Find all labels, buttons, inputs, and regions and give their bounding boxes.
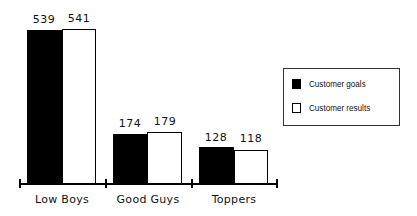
category-label-toppers: Toppers (191, 193, 277, 206)
legend-item-goals: Customer goals (292, 79, 372, 89)
category-label-good-guys: Good Guys (105, 193, 191, 206)
value-label: 539 (26, 13, 62, 26)
legend-swatch-goals (292, 79, 301, 89)
bar-low-boys-goals (27, 30, 62, 184)
bar-toppers-goals (199, 147, 234, 184)
legend-swatch-results (292, 103, 301, 113)
value-label: 118 (233, 132, 269, 145)
value-label: 128 (198, 131, 234, 144)
value-label: 179 (147, 115, 183, 128)
category-label-low-boys: Low Boys (19, 193, 105, 206)
value-label: 174 (112, 117, 148, 130)
value-label: 541 (61, 12, 97, 25)
x-axis-line (19, 183, 277, 185)
legend-label: Customer goals (309, 79, 366, 89)
legend: Customer goals Customer results (283, 68, 400, 126)
axis-tick (19, 179, 21, 188)
bar-toppers-results (234, 150, 268, 184)
legend-item-results: Customer results (292, 103, 377, 113)
axis-tick (105, 179, 107, 188)
bar-good-guys-results (147, 132, 182, 184)
axis-tick (191, 179, 193, 188)
axis-tick (276, 179, 278, 188)
legend-label: Customer results (309, 103, 370, 113)
bar-good-guys-goals (113, 134, 147, 184)
bar-low-boys-results (62, 29, 96, 184)
